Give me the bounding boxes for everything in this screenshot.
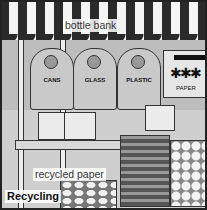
recycling-illustration: CANS GLASS PLASTIC ✱✱✱ PAPER bottle bank…: [0, 0, 207, 210]
bin-label: PAPER: [164, 85, 207, 91]
scene-caption: Recycling: [5, 190, 61, 203]
recycle-people-icon: ✱✱✱: [170, 65, 200, 81]
recycled-paper-label: recycled paper: [33, 168, 106, 181]
bin-hole: [44, 55, 58, 69]
cans-bin: CANS: [30, 48, 74, 110]
bin-label: CANS: [31, 77, 73, 83]
counter: [15, 140, 122, 150]
glass-bin: GLASS: [73, 48, 117, 110]
stall-pole: [18, 40, 24, 210]
paper-slot: [174, 55, 207, 60]
vegetable-crate: [170, 140, 207, 207]
paper-box: [145, 105, 175, 131]
paper-box: [64, 112, 96, 140]
fish-crate: [120, 135, 170, 207]
bin-hole: [87, 55, 101, 69]
paper-bin: ✱✱✱ PAPER: [163, 50, 207, 98]
bottle-bank-label: bottle bank: [63, 19, 118, 32]
bin-label: PLASTIC: [118, 77, 160, 83]
bin-label: GLASS: [74, 77, 116, 83]
produce-crate: [60, 180, 117, 210]
plastic-bin: PLASTIC: [117, 48, 161, 110]
bin-hole: [131, 55, 145, 69]
